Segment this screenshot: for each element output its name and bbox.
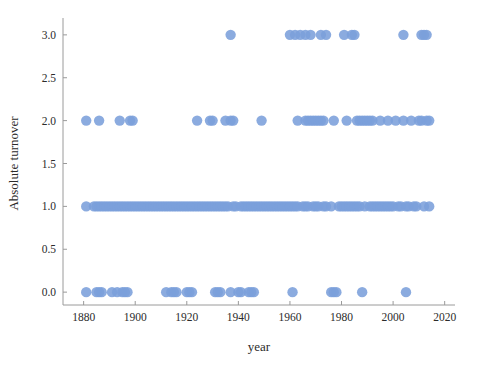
- data-point-group: [81, 30, 434, 298]
- x-tick-label: 2000: [382, 311, 405, 323]
- plot-canvas: 0.00.51.01.52.02.53.0 188019001920194019…: [0, 0, 480, 367]
- data-point: [207, 115, 217, 125]
- data-point: [318, 115, 328, 125]
- data-point: [287, 287, 297, 297]
- data-point: [401, 287, 411, 297]
- data-point: [341, 115, 351, 125]
- y-tick-label: 0.5: [42, 243, 57, 255]
- data-point: [115, 115, 125, 125]
- data-point: [225, 30, 235, 40]
- data-point: [321, 30, 331, 40]
- data-point: [81, 287, 91, 297]
- data-point: [192, 115, 202, 125]
- scatter-plot-figure: 0.00.51.01.52.02.53.0 188019001920194019…: [0, 0, 480, 367]
- y-axis-title: Absolute turnover: [6, 116, 21, 211]
- data-point: [256, 115, 266, 125]
- x-tick-label: 1960: [278, 311, 301, 323]
- data-point: [349, 30, 359, 40]
- data-point: [424, 201, 434, 211]
- y-tick-label: 2.0: [42, 115, 57, 127]
- x-tick-label: 1920: [175, 311, 198, 323]
- y-tick-label: 1.5: [42, 158, 57, 170]
- y-tick-label: 2.5: [42, 72, 57, 84]
- y-tick-label: 0.0: [42, 286, 57, 298]
- data-point: [357, 287, 367, 297]
- data-point: [249, 287, 259, 297]
- data-point: [215, 287, 225, 297]
- data-point: [398, 30, 408, 40]
- data-point: [127, 115, 137, 125]
- x-axis-title: year: [248, 339, 271, 354]
- data-point: [329, 115, 339, 125]
- x-axis-tick-group: 18801900192019401960198020002020: [72, 301, 456, 323]
- data-point: [331, 287, 341, 297]
- data-point: [421, 30, 431, 40]
- x-tick-label: 2020: [433, 311, 456, 323]
- data-point: [228, 115, 238, 125]
- data-point: [96, 287, 106, 297]
- data-point: [424, 115, 434, 125]
- x-tick-label: 1940: [227, 311, 250, 323]
- y-tick-label: 3.0: [42, 29, 57, 41]
- data-point: [305, 30, 315, 40]
- x-tick-label: 1880: [72, 311, 95, 323]
- y-tick-label: 1.0: [42, 200, 57, 212]
- data-point: [81, 115, 91, 125]
- x-tick-label: 1980: [330, 311, 353, 323]
- x-tick-label: 1900: [124, 311, 147, 323]
- data-point: [122, 287, 132, 297]
- data-point: [94, 115, 104, 125]
- data-point: [187, 287, 197, 297]
- data-point: [171, 287, 181, 297]
